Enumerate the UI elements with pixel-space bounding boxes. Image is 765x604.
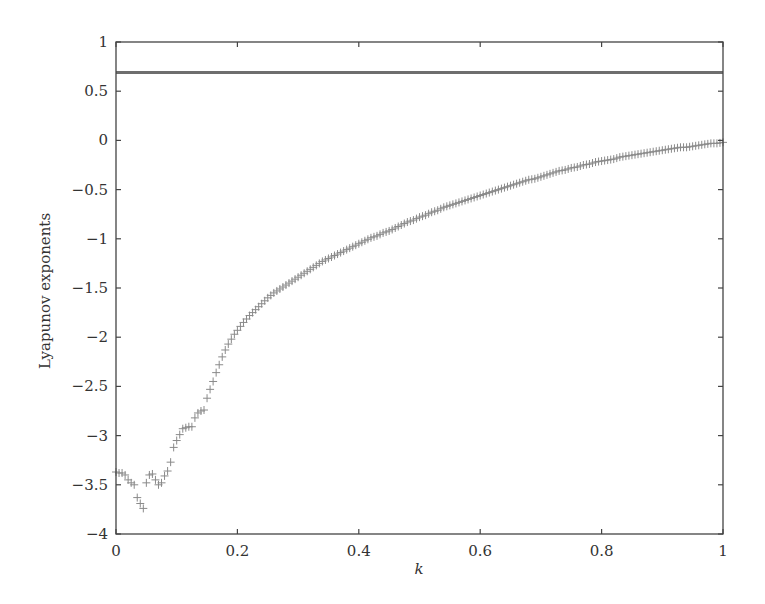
y-tick-label: −2 (86, 328, 108, 346)
y-tick-label: −1 (86, 230, 108, 248)
axis-ticks: 00.20.40.60.81−4−3.5−3−2.5−2−1.5−1−0.500… (72, 33, 728, 560)
x-tick-label: 0 (111, 542, 121, 560)
x-tick-label: 0.8 (590, 542, 614, 560)
series-markers (112, 138, 727, 512)
y-tick-label: −4 (86, 525, 108, 543)
x-tick-label: 1 (718, 542, 728, 560)
y-tick-label: −0.5 (72, 181, 108, 199)
x-tick-label: 0.2 (225, 542, 249, 560)
y-tick-label: 0.5 (84, 82, 108, 100)
y-tick-label: 0 (98, 131, 108, 149)
y-tick-label: −2.5 (72, 377, 108, 395)
lyapunov-chart: 00.20.40.60.81−4−3.5−3−2.5−2−1.5−1−0.500… (0, 0, 765, 604)
y-tick-label: −3.5 (72, 476, 108, 494)
y-tick-label: −3 (86, 427, 108, 445)
y-tick-label: −1.5 (72, 279, 108, 297)
series-layer (112, 73, 727, 513)
plot-frame (116, 42, 723, 534)
y-axis-label: Lyapunov exponents (36, 213, 54, 369)
x-axis-label: k (414, 560, 423, 578)
x-tick-label: 0.4 (347, 542, 371, 560)
x-tick-label: 0.6 (468, 542, 492, 560)
y-tick-label: 1 (98, 33, 108, 51)
